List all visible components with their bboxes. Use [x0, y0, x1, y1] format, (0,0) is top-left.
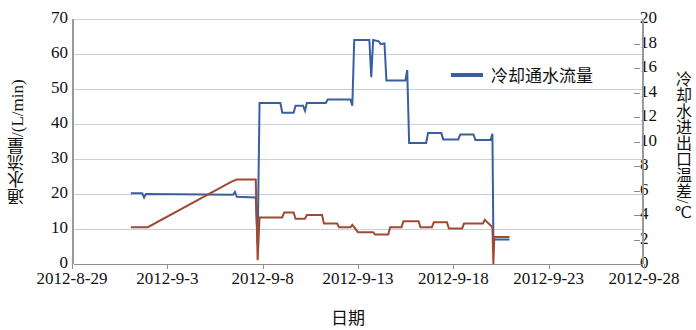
x-axis-tick-mark	[644, 264, 645, 269]
x-axis-tick-mark	[72, 264, 73, 269]
chart-root: 通水流量/(L/min) 冷却水进出口温差/℃ 日期 7060504030201…	[0, 0, 696, 330]
x-axis-tick-label: 2012-9-28	[584, 270, 696, 287]
plot-area	[72, 19, 644, 264]
series-layer	[74, 19, 642, 264]
legend-label-flow: 冷却通水流量	[491, 62, 593, 87]
series-line-temp-diff	[131, 179, 510, 264]
gridline	[74, 264, 642, 265]
legend-swatch-flow	[451, 73, 483, 77]
legend: 冷却通水流量	[447, 60, 597, 89]
